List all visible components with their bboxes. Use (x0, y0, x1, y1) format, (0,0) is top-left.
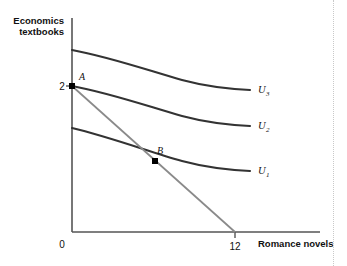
curve-label-u1: U 1 (258, 165, 270, 179)
origin-label: 0 (59, 239, 65, 250)
x-tick-label-12: 12 (229, 241, 241, 252)
axes-group (66, 18, 320, 238)
point-marker-b (152, 158, 158, 164)
curve-label-u2: U 2 (258, 120, 270, 134)
right-page-divider (333, 0, 334, 266)
curve-u3 (72, 50, 250, 90)
curve-label-u3: U 3 (258, 84, 270, 98)
curve-label-u2-subscript: 2 (266, 126, 270, 134)
point-marker-a (69, 83, 75, 89)
indifference-curve-chart: Economics textbooks Romance novels 0 2 1… (0, 0, 347, 266)
figure-canvas: Economics textbooks Romance novels 0 2 1… (0, 0, 347, 266)
y-axis-title-line2: textbooks (19, 26, 64, 37)
y-tick-label-2: 2 (59, 81, 65, 92)
x-axis-title: Romance novels (258, 238, 334, 249)
curve-label-u3-subscript: 3 (265, 90, 270, 98)
point-label-a: A (78, 71, 86, 82)
y-axis-title-line1: Economics (13, 15, 64, 26)
point-label-b: B (157, 145, 163, 156)
curve-label-u1-subscript: 1 (266, 171, 270, 179)
curve-u2 (72, 86, 250, 126)
